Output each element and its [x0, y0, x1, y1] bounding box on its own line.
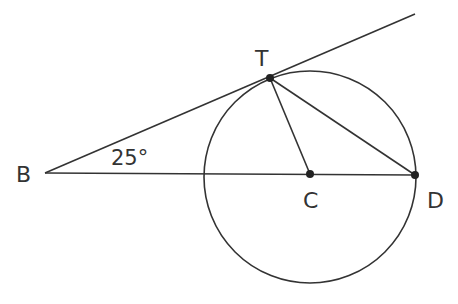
point-c: [306, 170, 314, 178]
radius-tc: [270, 78, 310, 174]
point-d: [411, 171, 419, 179]
label-d: D: [427, 188, 444, 213]
geometry-diagram: B T C D 25°: [0, 0, 458, 304]
label-c: C: [303, 188, 318, 213]
tangent-line-bt: [45, 14, 415, 173]
label-t: T: [254, 46, 269, 71]
line-bd: [45, 173, 415, 175]
point-t: [266, 74, 274, 82]
chord-td: [270, 78, 415, 175]
label-b: B: [16, 162, 31, 187]
angle-label: 25°: [111, 146, 148, 170]
